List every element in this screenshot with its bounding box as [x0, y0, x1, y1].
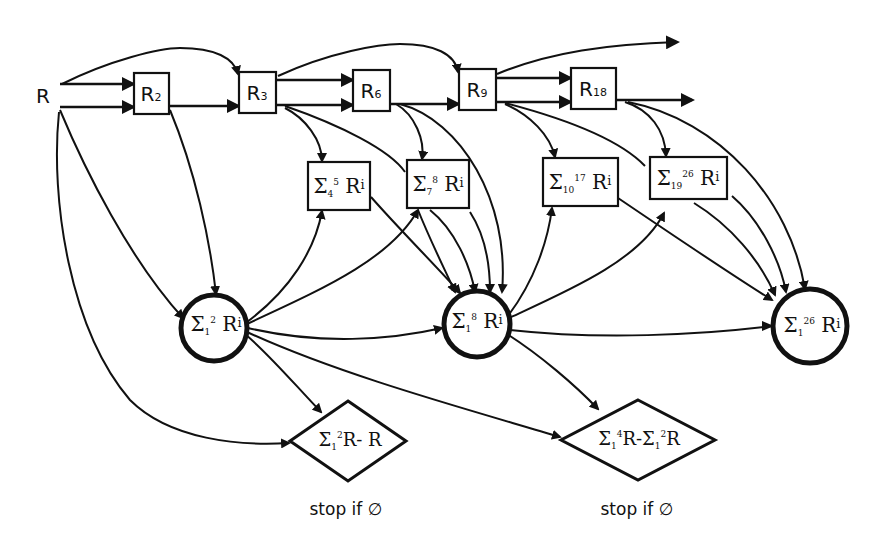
edge-sum4-5-sum1-8: [371, 197, 460, 293]
lower-bound: 4: [328, 189, 334, 199]
r9-sub: 9: [480, 87, 487, 100]
edge-r6-sum7-8: [396, 104, 423, 159]
node-decision1-label: Σ12R- R: [318, 431, 381, 452]
term: R: [444, 172, 459, 196]
node-r6-label: R6: [361, 81, 382, 101]
index: i: [459, 175, 463, 190]
r2-base: R: [141, 82, 155, 106]
index: i: [237, 315, 241, 330]
term: R: [700, 166, 715, 190]
node-sum19-26-label: Σ1926 Ri: [657, 168, 720, 191]
edges-down: [57, 102, 805, 444]
upper-bound: 2: [210, 315, 216, 325]
edge-sum19-26-sum1-26-a: [694, 203, 775, 295]
expression-tail: R- R: [343, 429, 382, 450]
upper-bound: 17: [574, 173, 585, 183]
edge-sum1-8-sum10-17: [508, 208, 552, 316]
decision2-caption: stop if ∅: [600, 501, 673, 518]
lower-bound: 1: [331, 442, 337, 452]
lower-bound: 19: [671, 181, 682, 191]
edge-sum1-8-sum19-26: [509, 213, 664, 318]
index: i: [836, 316, 840, 331]
r2-sub: 2: [154, 91, 161, 104]
lower-bound: 7: [427, 187, 433, 197]
lower-bound: 1: [798, 328, 804, 338]
node-decision2-label: Σ14R-Σ12R: [598, 430, 680, 451]
lower-bound: 1: [466, 324, 472, 334]
index: i: [360, 177, 364, 192]
term: R: [592, 170, 607, 194]
node-sum1-2-label: Σ12 Ri: [190, 314, 241, 337]
edge-r3-sum4-5: [285, 108, 322, 161]
lower-bound: 1: [611, 441, 617, 451]
lower-bound: 1: [205, 327, 211, 337]
sigma-glyph: Σ: [190, 312, 204, 336]
r3-sub: 3: [260, 90, 267, 103]
sigma-glyph: Σ: [451, 309, 465, 333]
r18-base: R: [579, 77, 593, 101]
r6-sub: 6: [374, 88, 381, 101]
edge-r9-sum10-17: [505, 104, 555, 157]
index: i: [498, 312, 502, 327]
index: i: [715, 169, 719, 184]
r3-base: R: [247, 81, 261, 105]
term: R: [345, 174, 360, 198]
sigma-glyph: Σ: [784, 313, 798, 337]
expression-tail: R: [666, 428, 680, 449]
decision1-caption: stop if ∅: [309, 501, 382, 518]
flow-diagram-canvas: [0, 0, 877, 541]
edge-r-sum1-2: [60, 110, 183, 318]
upper-bound: 8: [432, 175, 438, 185]
edge-r3-sum1-8-b: [418, 210, 455, 292]
edge-sum1-8-sum1-26: [510, 326, 772, 336]
term: R: [483, 309, 498, 333]
edge-sum1-2-decision2: [247, 332, 560, 437]
r9-base: R: [467, 78, 481, 102]
node-sum7-8-label: Σ78 Ri: [412, 174, 463, 197]
upper-bound: 26: [803, 316, 814, 326]
node-sum1-26-label: Σ126 Ri: [784, 315, 841, 338]
index: i: [607, 173, 611, 188]
lower-bound: 10: [563, 185, 574, 195]
node-r2-label: R2: [141, 84, 162, 104]
edge-r-decision1: [57, 112, 289, 444]
upper-bound: 26: [682, 169, 693, 179]
lower-bound-2: 1: [655, 441, 661, 451]
edge-sum1-2-decision1: [245, 334, 321, 412]
node-sum4-5-label: Σ45 Ri: [313, 176, 364, 199]
sigma-glyph: Σ: [412, 172, 426, 196]
r18-sub: 18: [593, 86, 607, 99]
term: R: [821, 313, 836, 337]
r6-base: R: [361, 79, 375, 103]
sigma-glyph: Σ: [549, 170, 563, 194]
node-r3-label: R3: [247, 83, 268, 103]
sigma-glyph: Σ: [657, 166, 671, 190]
edge-sum19-26-sum1-26-b: [732, 196, 786, 292]
node-sum1-8-label: Σ18 Ri: [451, 311, 502, 334]
source-label: R: [36, 84, 50, 108]
source-node-r: R: [36, 86, 50, 106]
node-r9-label: R9: [467, 80, 488, 100]
edge-sum1-2-sum7-8: [247, 210, 418, 324]
edge-r2-sum1-2: [170, 110, 216, 294]
sigma-glyph: Σ: [313, 174, 327, 198]
edge-sum1-2-sum4-5: [247, 211, 322, 322]
upper-bound: 5: [333, 177, 339, 187]
upper-bound: 8: [471, 312, 477, 322]
sigma-glyph: Σ: [318, 429, 331, 450]
expression-mid: R-: [622, 428, 642, 449]
node-r18-label: R18: [579, 79, 607, 99]
sigma-glyph-2: Σ: [642, 428, 655, 449]
edge-r9-sum1-26-a: [505, 103, 645, 166]
sigma-glyph: Σ: [598, 428, 611, 449]
edge-sum1-2-sum1-8: [248, 328, 442, 339]
term: R: [222, 312, 237, 336]
edge-sum1-8-decision2: [507, 334, 598, 409]
node-sum10-17-label: Σ1017 Ri: [549, 172, 612, 195]
